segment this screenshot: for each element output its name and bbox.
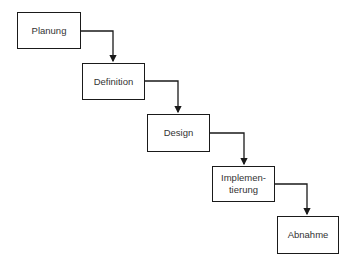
step-label: Implemen- tierung (221, 172, 266, 196)
arrow-implementierung-abnahme (275, 184, 307, 214)
arrow-design-implementierung (210, 133, 244, 164)
step-implementierung: Implemen- tierung (212, 166, 275, 202)
step-planung: Planung (17, 12, 81, 49)
step-label: Planung (32, 25, 67, 37)
step-label: Abnahme (288, 229, 329, 241)
step-label: Design (164, 127, 194, 139)
step-design: Design (147, 114, 210, 152)
step-label: Definition (94, 76, 134, 88)
step-definition: Definition (82, 63, 145, 100)
arrow-planung-definition (81, 31, 113, 61)
step-abnahme: Abnahme (277, 216, 339, 254)
arrow-definition-design (145, 81, 178, 112)
